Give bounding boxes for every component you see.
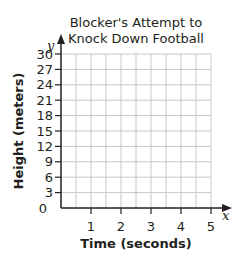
ticks: 3691215182124273012345 xyxy=(36,47,215,235)
x-axis-variable: x xyxy=(222,208,230,223)
y-tick-label: 24 xyxy=(36,77,53,92)
y-tick-label: 27 xyxy=(36,62,53,77)
y-tick-label: 6 xyxy=(45,170,53,185)
x-tick-label: 5 xyxy=(207,219,215,234)
x-tick-label: 2 xyxy=(117,219,125,234)
y-tick-label: 15 xyxy=(36,124,53,139)
origin-label: 0 xyxy=(39,201,47,216)
y-tick-label: 3 xyxy=(45,185,53,200)
x-tick-label: 4 xyxy=(177,219,185,234)
chart: 3691215182124273012345 Blocker's Attempt… xyxy=(0,0,241,263)
y-axis-label: Height (meters) xyxy=(11,73,26,190)
y-tick-label: 18 xyxy=(36,108,53,123)
x-tick-label: 3 xyxy=(147,219,155,234)
y-tick-label: 12 xyxy=(36,139,53,154)
y-tick-label: 21 xyxy=(36,93,53,108)
chart-title-line-2: Knock Down Football xyxy=(68,31,204,46)
y-axis-variable: y xyxy=(46,38,55,53)
y-axis-arrow-icon xyxy=(57,34,65,44)
chart-title-line-1: Blocker's Attempt to xyxy=(70,15,203,30)
x-tick-label: 1 xyxy=(87,219,95,234)
y-tick-label: 9 xyxy=(45,154,53,169)
axes xyxy=(57,34,232,212)
x-axis-label: Time (seconds) xyxy=(80,236,192,251)
grid xyxy=(61,54,211,208)
